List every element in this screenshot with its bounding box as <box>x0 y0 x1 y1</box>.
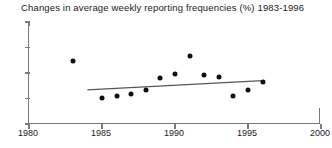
x-axis-labels: 19801985199019952000 <box>0 0 332 148</box>
chart-figure: Changes in average weekly reporting freq… <box>0 0 332 148</box>
x-axis-tick-label: 1985 <box>91 128 111 138</box>
x-axis-tick-label: 2000 <box>310 128 330 138</box>
x-axis-tick-label: 1995 <box>237 128 257 138</box>
x-axis-tick-label: 1980 <box>18 128 38 138</box>
x-axis-tick-label: 1990 <box>164 128 184 138</box>
